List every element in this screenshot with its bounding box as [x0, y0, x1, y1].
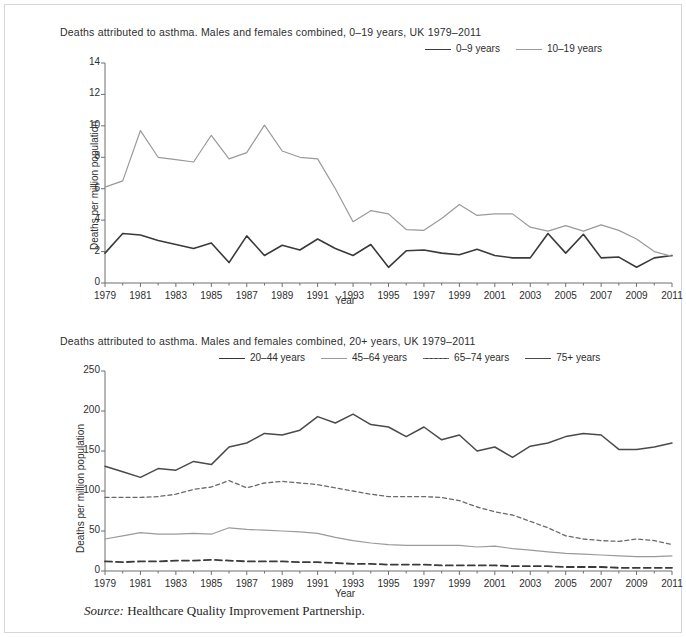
series-line-75-years	[105, 414, 672, 477]
y-tick-label: 150	[69, 444, 100, 455]
legend-item-65-74-years[interactable]: 65–74 years	[423, 352, 509, 363]
x-tick-label: 2003	[512, 290, 548, 301]
x-tick-label: 2011	[654, 290, 686, 301]
x-tick-label: 2005	[548, 290, 584, 301]
series-line-65-74-years	[105, 481, 672, 545]
y-tick-label: 12	[69, 87, 100, 98]
figure-frame: Deaths attributed to asthma. Males and f…	[4, 4, 682, 633]
x-tick-label: 1993	[335, 290, 371, 301]
x-tick-label: 2011	[654, 578, 686, 589]
legend-item-45-64-years[interactable]: 45–64 years	[321, 352, 407, 363]
x-tick-label: 1995	[371, 578, 407, 589]
legend-label-65-74-years: 65–74 years	[454, 352, 509, 363]
legend-bottom: 20–44 years 45–64 years 65–74 years 75+ …	[219, 352, 600, 363]
x-tick-label: 2009	[619, 578, 655, 589]
x-tick-label: 1989	[264, 290, 300, 301]
source-note: Source: Healthcare Quality Improvement P…	[84, 603, 365, 619]
x-tick-label: 1993	[335, 578, 371, 589]
legend-label-45-64-years: 45–64 years	[352, 352, 407, 363]
x-tick-label: 2007	[583, 290, 619, 301]
x-tick-label: 1987	[229, 578, 265, 589]
series-line-10-19-years	[105, 125, 672, 256]
y-tick-label: 200	[69, 404, 100, 415]
x-tick-label: 2003	[512, 578, 548, 589]
y-tick-label: 2	[69, 245, 100, 256]
x-tick-label: 1997	[406, 290, 442, 301]
y-tick-label: 6	[69, 182, 100, 193]
x-tick-label: 1979	[87, 290, 123, 301]
x-tick-label: 1991	[300, 578, 336, 589]
legend-label-20-44-years: 20–44 years	[250, 352, 305, 363]
chart-title-top: Deaths attributed to asthma. Males and f…	[60, 26, 481, 38]
x-tick-label: 1997	[406, 578, 442, 589]
legend-label-0-9-years: 0–9 years	[456, 43, 500, 54]
x-tick-label: 1985	[193, 578, 229, 589]
legend-item-10-19-years[interactable]: 10–19 years	[516, 43, 602, 54]
x-tick-label: 2009	[619, 290, 655, 301]
chart-plot-bottom	[60, 363, 680, 593]
y-tick-label: 100	[69, 484, 100, 495]
x-tick-label: 1991	[300, 290, 336, 301]
x-tick-label: 1985	[193, 290, 229, 301]
y-tick-label: 4	[69, 213, 100, 224]
series-line-0-9-years	[105, 234, 672, 268]
x-tick-label: 2007	[583, 578, 619, 589]
chart-plot-top	[60, 55, 680, 305]
y-tick-label: 10	[69, 119, 100, 130]
x-tick-label: 2001	[477, 578, 513, 589]
x-tick-label: 1999	[441, 290, 477, 301]
x-tick-label: 2001	[477, 290, 513, 301]
x-tick-label: 1983	[158, 290, 194, 301]
y-tick-label: 0	[69, 564, 100, 575]
y-tick-label: 8	[69, 150, 100, 161]
x-tick-label: 2005	[548, 578, 584, 589]
y-tick-label: 14	[69, 56, 100, 67]
legend-label-10-19-years: 10–19 years	[547, 43, 602, 54]
legend-label-75-plus-years: 75+ years	[556, 352, 600, 363]
chart-title-bottom: Deaths attributed to asthma. Males and f…	[60, 335, 476, 347]
y-tick-label: 50	[69, 524, 100, 535]
legend-item-75-plus-years[interactable]: 75+ years	[525, 352, 600, 363]
legend-item-0-9-years[interactable]: 0–9 years	[425, 43, 500, 54]
series-line-45-64-years	[105, 528, 672, 557]
y-tick-label: 250	[69, 364, 100, 375]
legend-top: 0–9 years 10–19 years	[425, 43, 602, 54]
x-tick-label: 1999	[441, 578, 477, 589]
source-prefix: Source:	[84, 603, 124, 618]
y-tick-label: 0	[69, 276, 100, 287]
x-tick-label: 1987	[229, 290, 265, 301]
x-tick-label: 1979	[87, 578, 123, 589]
source-text: Healthcare Quality Improvement Partnersh…	[127, 603, 365, 618]
legend-item-20-44-years[interactable]: 20–44 years	[219, 352, 305, 363]
x-tick-label: 1983	[158, 578, 194, 589]
x-tick-label: 1995	[371, 290, 407, 301]
x-tick-label: 1989	[264, 578, 300, 589]
x-tick-label: 1981	[122, 578, 158, 589]
series-line-20-44-years	[105, 560, 672, 568]
x-tick-label: 1981	[122, 290, 158, 301]
